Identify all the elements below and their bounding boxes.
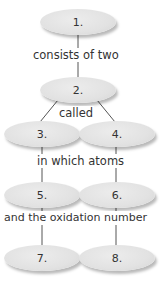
- node-label: 8.: [112, 252, 123, 265]
- node-label: 6.: [112, 189, 123, 202]
- concept-node-6: 6.: [79, 182, 155, 208]
- link-phrase-consists: consists of two: [32, 48, 120, 62]
- link-phrase-in-which-atoms: in which atoms: [36, 154, 125, 168]
- concept-node-7: 7.: [4, 245, 80, 271]
- concept-node-3: 3.: [4, 121, 80, 147]
- node-label: 3.: [37, 128, 48, 141]
- concept-node-4: 4.: [79, 121, 155, 147]
- link-phrase-oxidation-number: and the oxidation number: [3, 211, 148, 225]
- node-label: 5.: [37, 189, 48, 202]
- concept-node-2: 2.: [40, 77, 116, 103]
- concept-node-8: 8.: [79, 245, 155, 271]
- concept-node-1: 1.: [40, 9, 116, 35]
- node-label: 4.: [112, 128, 123, 141]
- link-phrase-called: called: [58, 106, 94, 120]
- node-label: 2.: [73, 84, 84, 97]
- node-label: 1.: [73, 16, 84, 29]
- concept-node-5: 5.: [4, 182, 80, 208]
- node-label: 7.: [37, 252, 48, 265]
